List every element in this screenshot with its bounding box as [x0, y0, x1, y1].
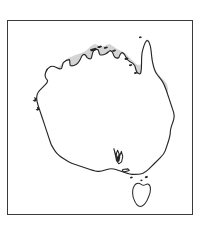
australia-map-svg	[8, 21, 192, 214]
tasmania-outline	[133, 183, 151, 206]
mainland-coastline-group	[37, 41, 175, 175]
australia-mainland-outline	[37, 41, 175, 175]
bass-strait-islands-group	[130, 176, 148, 181]
tasmania-group	[133, 183, 151, 206]
map-frame-border	[7, 20, 193, 215]
cape-barren-islet-icon	[140, 179, 142, 181]
torres-islet-icon	[139, 36, 142, 38]
distribution-map-figure	[0, 0, 208, 229]
flinders-island-icon	[145, 176, 148, 178]
king-island-icon	[130, 176, 133, 178]
